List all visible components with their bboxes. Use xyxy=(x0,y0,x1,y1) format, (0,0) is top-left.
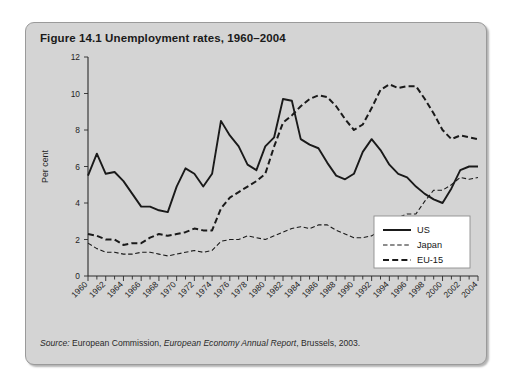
source-note: Source: European Commission, European Ec… xyxy=(40,338,360,348)
x-tick-label: 1980 xyxy=(246,279,266,299)
y-tick-label: 8 xyxy=(75,125,80,135)
x-tick-label: 1972 xyxy=(176,279,196,299)
x-tick-label: 2002 xyxy=(441,279,461,299)
y-axis: 024681012 xyxy=(71,52,88,281)
x-tick-label: 1960 xyxy=(69,279,89,299)
y-tick-label: 4 xyxy=(75,198,80,208)
y-tick-label: 6 xyxy=(75,162,80,172)
x-axis: 1960196219641966196819701972197419761978… xyxy=(69,276,479,300)
x-tick-label: 2000 xyxy=(424,279,444,299)
source-work-title: European Economy Annual Report xyxy=(164,338,297,348)
x-tick-label: 1976 xyxy=(211,279,231,299)
x-tick-label: 1990 xyxy=(335,279,355,299)
unemployment-line-chart: 024681012 196019621964196619681970197219… xyxy=(26,49,487,334)
x-tick-label: 1988 xyxy=(317,279,337,299)
x-tick-label: 1998 xyxy=(406,279,426,299)
chart-svg: 024681012 196019621964196619681970197219… xyxy=(26,49,487,334)
x-tick-label: 1982 xyxy=(264,279,284,299)
y-tick-label: 2 xyxy=(75,235,80,245)
y-tick-label: 12 xyxy=(71,52,81,62)
legend-label-eu-15: EU-15 xyxy=(417,255,443,265)
source-label: Source: xyxy=(40,338,70,348)
x-tick-label: 2004 xyxy=(459,279,479,299)
x-tick-label: 1994 xyxy=(371,279,391,299)
legend-label-japan: Japan xyxy=(417,240,442,250)
x-tick-label: 1978 xyxy=(229,279,249,299)
source-text-2: , Brussels, 2003. xyxy=(296,338,360,348)
y-axis-title: Per cent xyxy=(40,150,50,183)
chart-legend: USJapanEU-15 xyxy=(374,216,470,268)
x-tick-label: 1962 xyxy=(87,279,107,299)
y-tick-label: 0 xyxy=(75,271,80,281)
x-tick-label: 1968 xyxy=(140,279,160,299)
figure-panel: Figure 14.1 Unemployment rates, 1960–200… xyxy=(25,22,487,365)
series-line-us xyxy=(88,99,478,212)
figure-title: Figure 14.1 Unemployment rates, 1960–200… xyxy=(40,32,286,44)
x-tick-label: 1986 xyxy=(300,279,320,299)
x-tick-label: 1974 xyxy=(193,279,213,299)
x-tick-label: 1964 xyxy=(105,279,125,299)
x-tick-label: 1992 xyxy=(353,279,373,299)
x-tick-label: 1996 xyxy=(388,279,408,299)
legend-label-us: US xyxy=(417,225,430,235)
x-tick-label: 1970 xyxy=(158,279,178,299)
x-tick-label: 1984 xyxy=(282,279,302,299)
x-tick-label: 1966 xyxy=(122,279,142,299)
source-text-1: European Commission, xyxy=(70,338,164,348)
y-tick-label: 10 xyxy=(71,89,81,99)
